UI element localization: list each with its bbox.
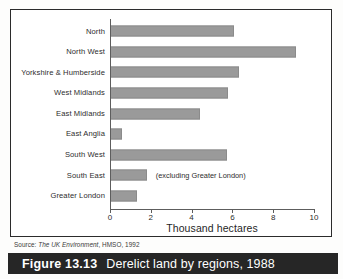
bar-category-label: South West [11, 151, 110, 159]
bar-row: North West [11, 42, 331, 63]
x-axis-tick-label: 6 [230, 213, 234, 222]
bar-annotation: (excluding Greater London) [156, 171, 246, 180]
bar [110, 149, 227, 160]
x-axis-tick-label: 8 [271, 213, 275, 222]
bar [110, 67, 239, 78]
figure-container: NorthNorth WestYorkshire & HumbersideWes… [0, 0, 343, 279]
bar [110, 46, 296, 57]
source-prefix: Source: [14, 241, 36, 248]
source-title: The UK Environment [38, 241, 98, 248]
bar-row: South West [11, 145, 331, 166]
source-rest: , HMSO, 1992 [98, 241, 139, 248]
bar-track [110, 145, 331, 166]
plot-area: NorthNorth WestYorkshire & HumbersideWes… [11, 10, 331, 236]
figure-title: Derelict land by regions, 1988 [106, 257, 274, 271]
x-axis-title: Thousand hectares [110, 222, 314, 234]
figure-caption-bar: Figure 13.13 Derelict land by regions, 1… [8, 253, 338, 274]
bar-track [110, 21, 331, 42]
bar-track [110, 42, 331, 63]
bar-row: West Midlands [11, 83, 331, 104]
bar-category-label: Greater London [11, 192, 110, 200]
bar-row: East Midlands [11, 103, 331, 124]
figure-number: Figure 13.13 [22, 257, 97, 271]
bar [110, 26, 234, 37]
x-axis-tick-label: 0 [108, 213, 112, 222]
bar-category-label: North West [11, 48, 110, 56]
bar-category-label: East Midlands [11, 110, 110, 118]
bar-track [110, 62, 331, 83]
x-axis-tick-label: 10 [310, 213, 319, 222]
bar [110, 88, 228, 99]
chart-frame: NorthNorth WestYorkshire & HumbersideWes… [10, 9, 332, 237]
bar-track [110, 124, 331, 145]
bar-row: North [11, 21, 331, 42]
bar-row: Yorkshire & Humberside [11, 62, 331, 83]
bar-rows: NorthNorth WestYorkshire & HumbersideWes… [11, 21, 331, 206]
bar-track [110, 103, 331, 124]
bar-row: Greater London [11, 186, 331, 207]
bar [110, 170, 147, 181]
x-axis-tick-label: 4 [189, 213, 193, 222]
bar-row: East Anglia [11, 124, 331, 145]
bar-track: (excluding Greater London) [110, 165, 331, 186]
y-axis-line [110, 19, 111, 209]
bar [110, 191, 137, 202]
bar-track [110, 186, 331, 207]
bar-category-label: South East [11, 172, 110, 180]
x-axis-tick-label: 2 [149, 213, 153, 222]
bar-category-label: West Midlands [11, 89, 110, 97]
bar-category-label: East Anglia [11, 130, 110, 138]
bar-category-label: North [11, 28, 110, 36]
bar-track [110, 83, 331, 104]
bar [110, 108, 200, 119]
bar-row: South East(excluding Greater London) [11, 165, 331, 186]
source-note: Source: The UK Environment, HMSO, 1992 [14, 241, 140, 248]
x-axis-line [110, 209, 314, 210]
bar-category-label: Yorkshire & Humberside [11, 69, 110, 77]
bar [110, 129, 122, 140]
